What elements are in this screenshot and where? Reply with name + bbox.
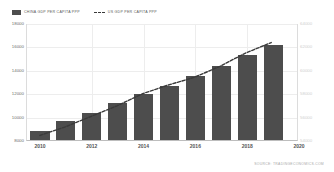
line-path (40, 43, 271, 136)
y-tick-left-label: 16000 (12, 45, 24, 49)
x-tick-label: 2020 (293, 144, 304, 149)
y-tick-right-label: 56000 (300, 115, 312, 119)
line-series-us (27, 24, 297, 140)
y-tick-right-label: 64000 (300, 22, 312, 26)
y-tick-left-label: 18000 (12, 22, 24, 26)
y-tick-left-label: 12000 (12, 92, 24, 96)
y-tick-right-label: 62000 (300, 45, 312, 49)
y-tick-left-label: 8000 (14, 139, 24, 143)
gdp-per-capita-chart: CHINA GDP PER CAPITA PPP US GDP PER CAPI… (0, 0, 334, 172)
dashed-line-swatch-icon (94, 10, 105, 15)
chart-legend: CHINA GDP PER CAPITA PPP US GDP PER CAPI… (12, 8, 157, 17)
legend-label-us: US GDP PER CAPITA PPP (108, 11, 157, 15)
legend-item-us[interactable]: US GDP PER CAPITA PPP (94, 10, 157, 15)
legend-item-china[interactable]: CHINA GDP PER CAPITA PPP (12, 10, 80, 15)
x-tick-label: 2010 (34, 144, 45, 149)
y-tick-left-label: 10000 (12, 115, 24, 119)
legend-label-china: CHINA GDP PER CAPITA PPP (24, 11, 80, 15)
y-tick-right-label: 58000 (300, 92, 312, 96)
y-tick-right-label: 60000 (300, 69, 312, 73)
plot-area: 80001000012000140001600018000 5400056000… (26, 24, 298, 141)
x-tick-label: 2016 (190, 144, 201, 149)
x-tick-label: 2018 (242, 144, 253, 149)
source-credit: SOURCE: TRADINGECONOMICS.COM (254, 162, 324, 166)
bar-swatch-icon (12, 10, 21, 15)
x-tick-label: 2014 (138, 144, 149, 149)
y-tick-left-label: 14000 (12, 69, 24, 73)
x-tick-label: 2012 (86, 144, 97, 149)
